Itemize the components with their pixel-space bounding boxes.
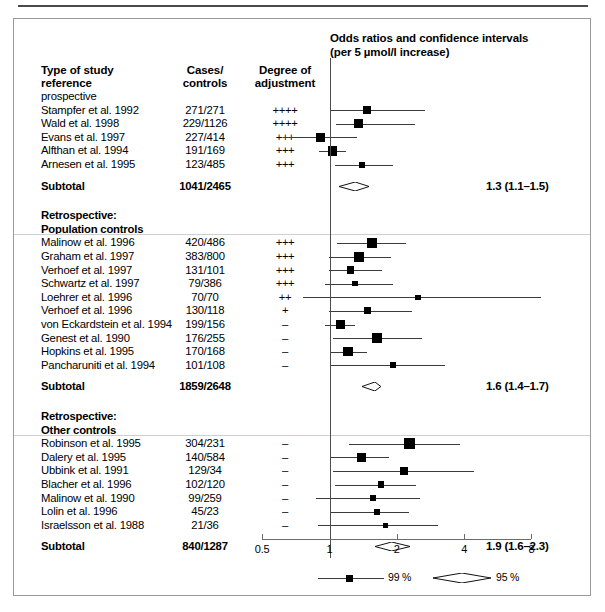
study-adjustment: – <box>230 359 340 372</box>
column-header-adjust-line1: Degree of <box>230 64 340 78</box>
section-1-subtotal-label: Subtotal <box>41 380 85 393</box>
study-adjustment: – <box>230 492 340 505</box>
study-adjustment: – <box>230 519 340 532</box>
study-adjustment: – <box>230 451 340 464</box>
section-1-heading-0: Retrospective: <box>41 209 117 222</box>
section-1-subtotal-value: 1.6 (1.4–1.7) <box>486 380 549 393</box>
study-label: Pancharuniti et al. 1994 <box>41 359 155 372</box>
study-adjustment: +++ <box>230 277 340 290</box>
study-adjustment: – <box>230 332 340 345</box>
plot-title-line2: (per 5 µmol/l increase) <box>330 45 449 59</box>
study-label: Verhoef et al. 1997 <box>41 264 132 277</box>
study-label: Hopkins et al. 1995 <box>41 345 134 358</box>
study-label: Wald et al. 1998 <box>41 117 119 130</box>
section-2-subtotal-label: Subtotal <box>41 540 85 553</box>
study-adjustment: +++ <box>230 236 340 249</box>
study-adjustment: – <box>230 318 340 331</box>
study-label: Arnesen et al. 1995 <box>41 158 135 171</box>
study-adjustment: +++ <box>230 131 340 144</box>
study-adjustment: ++++ <box>230 117 340 130</box>
study-label: Lolin et al. 1996 <box>41 505 117 518</box>
column-header-study-line1: Type of study <box>41 64 114 78</box>
study-label: Dalery et al. 1995 <box>41 451 126 464</box>
study-adjustment: – <box>230 505 340 518</box>
study-adjustment: + <box>230 304 340 317</box>
column-header-study-line2: reference <box>41 77 92 91</box>
study-label: Israelsson et al. 1988 <box>41 519 144 532</box>
section-1-subtotal-counts: 1859/2648 <box>150 380 260 393</box>
study-label: Genest et al. 1990 <box>41 332 130 345</box>
study-label: Ubbink et al. 1991 <box>41 464 128 477</box>
study-label: Evans et al. 1997 <box>41 131 125 144</box>
top-rule <box>18 5 588 7</box>
study-adjustment: ++ <box>230 291 340 304</box>
study-label: Robinson et al. 1995 <box>41 437 141 450</box>
plot-title-line1: Odds ratios and confidence intervals <box>330 31 528 45</box>
study-adjustment: +++ <box>230 250 340 263</box>
study-adjustment: – <box>230 345 340 358</box>
section-0-subtotal-counts: 1041/2465 <box>150 180 260 193</box>
study-adjustment: ++++ <box>230 104 340 117</box>
column-header-adjust-line2: adjustment <box>230 77 340 91</box>
section-0-heading-0: prospective <box>41 90 97 103</box>
study-label: Stampfer et al. 1992 <box>41 104 139 117</box>
section-0-subtotal-value: 1.3 (1.1–1.5) <box>486 180 549 193</box>
study-label: Alfthan et al. 1994 <box>41 144 128 157</box>
section-2-subtotal-counts: 840/1287 <box>150 540 260 553</box>
study-label: Verhoef et al. 1996 <box>41 304 132 317</box>
study-label: Graham et al. 1997 <box>41 250 134 263</box>
section-2-heading-0: Retrospective: <box>41 410 117 423</box>
study-adjustment: – <box>230 464 340 477</box>
study-label: Schwartz et al. 1997 <box>41 277 139 290</box>
study-adjustment: – <box>230 437 340 450</box>
study-label: Loehrer et al. 1996 <box>41 291 132 304</box>
section-0-subtotal-label: Subtotal <box>41 180 85 193</box>
section-2-subtotal-value: 1.9 (1.6–2.3) <box>486 540 549 553</box>
study-adjustment: +++ <box>230 264 340 277</box>
study-adjustment: +++ <box>230 158 340 171</box>
study-adjustment: – <box>230 478 340 491</box>
section-1-heading-1: Population controls <box>41 223 143 236</box>
study-label: Blacher et al. 1996 <box>41 478 131 491</box>
section-2-heading-1: Other controls <box>41 424 116 437</box>
study-adjustment: +++ <box>230 144 340 157</box>
forest-plot-page: Odds ratios and confidence intervals (pe… <box>0 0 605 612</box>
study-label: Malinow et al. 1990 <box>41 492 135 505</box>
study-label: Malinow et al. 1996 <box>41 236 135 249</box>
